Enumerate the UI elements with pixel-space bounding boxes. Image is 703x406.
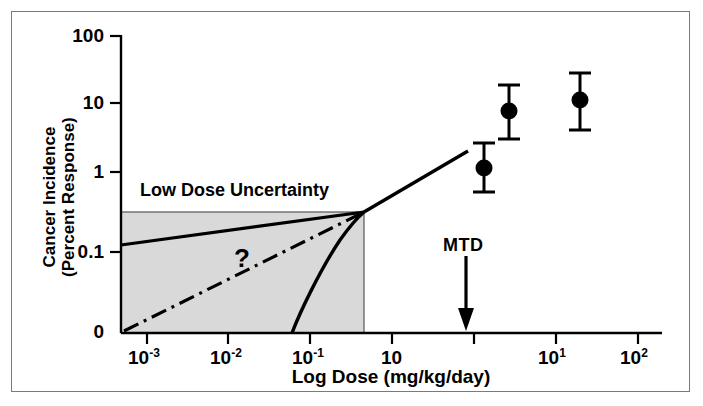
question-mark-annotation: ? [234, 243, 250, 274]
y-tick-label-100: 100 [48, 26, 104, 45]
y-axis-ticks [110, 36, 121, 252]
figure-container: 100 10 1 0.1 0 10-3 10-2 10-1 10 101 102… [0, 0, 703, 406]
observed-range-fit-line [364, 151, 468, 212]
y-axis-title-line2: (Percent Response) [59, 72, 78, 322]
y-tick-label-0: 0 [48, 322, 104, 341]
data-point-2 [498, 85, 520, 139]
x-tick-label-5: 101 [538, 348, 566, 367]
plot-area [0, 0, 703, 406]
data-point-1 [473, 143, 495, 192]
x-tick-label-6: 102 [620, 348, 648, 367]
low-dose-uncertainty-label: Low Dose Uncertainty [140, 180, 329, 201]
x-tick-label-1: 10-3 [128, 348, 160, 367]
mtd-label: MTD [443, 235, 484, 256]
mtd-arrow-icon [458, 256, 474, 331]
x-axis-ticks [147, 333, 638, 344]
y-axis-title-line1: Cancer Incidence [40, 72, 59, 322]
x-axis-title: Log Dose (mg/kg/day) [121, 366, 661, 388]
y-axis-title: Cancer Incidence (Percent Response) [40, 72, 78, 322]
x-tick-label-4: 10 [381, 348, 402, 367]
x-tick-label-3: 10-1 [292, 348, 324, 367]
x-tick-label-2: 10-2 [210, 348, 242, 367]
data-point-3 [569, 73, 591, 130]
